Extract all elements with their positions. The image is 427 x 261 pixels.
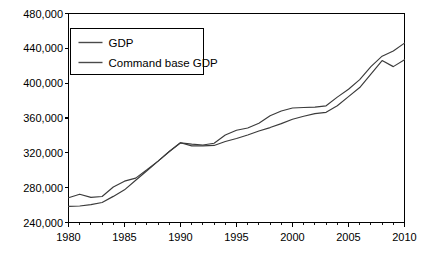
chart-legend: GDPCommand base GDP [71,29,219,75]
chart-container: 240,000280,000320,000360,000400,000440,0… [0,0,427,261]
x-tick-label: 2000 [280,231,304,243]
legend-label-1: Command base GDP [109,57,219,69]
line-chart: 240,000280,000320,000360,000400,000440,0… [0,0,427,261]
y-tick-label: 360,000 [23,112,63,124]
y-tick-label: 320,000 [23,147,63,159]
plot-background [0,0,427,261]
y-tick-label: 240,000 [23,217,63,229]
x-tick-label: 1985 [112,231,136,243]
y-tick-label: 440,000 [23,42,63,54]
y-tick-label: 480,000 [23,8,63,20]
x-tick-label: 1980 [56,231,80,243]
x-tick-label: 1990 [168,231,192,243]
x-tick-label: 2005 [336,231,360,243]
y-tick-label: 400,000 [23,77,63,89]
legend-label-0: GDP [109,37,134,49]
x-tick-label: 1995 [224,231,248,243]
x-tick-label: 2010 [392,231,416,243]
y-tick-label: 280,000 [23,182,63,194]
